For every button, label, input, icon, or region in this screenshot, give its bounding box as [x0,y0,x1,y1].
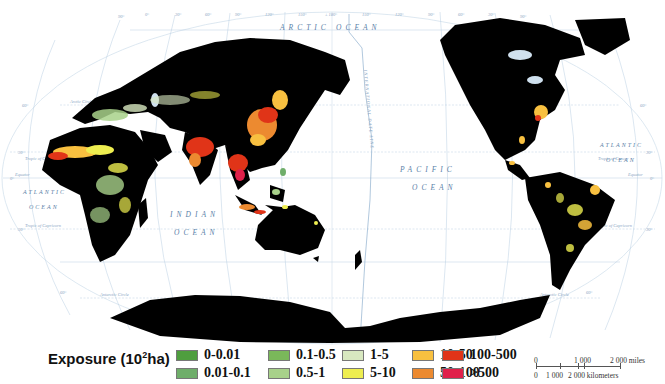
legend-title: Exposure (102ha) [48,350,170,367]
svg-text:60°: 60° [205,12,212,17]
legend-item-1-5: 1-5 [342,348,389,362]
svg-text:60°: 60° [22,103,29,108]
atlantic-ocean-west-label-1: ATLANTIC [22,189,66,195]
legend-item-0-0.01: 0-0.01 [176,348,240,362]
svg-text:90°: 90° [520,14,527,19]
scale-bar: 0 1 000 2 000 miles 0 1 000 2 000 kilome… [532,356,662,382]
legend-swatch [442,350,464,361]
legend-swatch [342,368,364,379]
svg-text:60°: 60° [586,290,593,295]
legend-item-0.01-0.1: 0.01-0.1 [176,366,251,380]
legend-item-100-500: 100-500 [442,348,517,362]
arctic-ocean-label-1: ARCTIC [279,23,330,32]
legend-item-0.5-1: 0.5-1 [268,366,325,380]
atlantic-ocean-east-label-2: OCEAN [606,157,636,163]
svg-text:Tropic of Capricorn: Tropic of Capricorn [25,223,62,228]
legend-swatch [412,368,434,379]
svg-text:150°: 150° [362,12,371,17]
svg-text:Equator: Equator [627,172,643,177]
legend-swatch [176,368,198,379]
svg-text:0°: 0° [145,12,149,17]
legend-swatch [268,368,290,379]
legend-swatch [268,350,290,361]
svg-text:120°: 120° [395,12,404,17]
svg-text:Equator: Equator [14,172,30,177]
world-exposure-map: 90° 0° 30° 60° 90° 120° 150° ± 180° 150°… [0,0,665,345]
svg-text:Antarctic Circle: Antarctic Circle [99,292,129,297]
svg-text:30°: 30° [175,12,182,17]
svg-text:30°: 30° [18,150,25,155]
svg-text:0°: 0° [10,176,14,181]
svg-text:60°: 60° [60,290,67,295]
legend-item-over-500: >500 [442,366,499,380]
svg-text:60°: 60° [458,12,465,17]
svg-text:30°: 30° [646,227,653,232]
atlantic-ocean-east-label-1: ATLANTIC [599,142,643,148]
svg-text:90°: 90° [235,12,242,17]
svg-text:90°: 90° [428,12,435,17]
svg-text:90°: 90° [118,14,125,19]
legend-item-0.1-0.5: 0.1-0.5 [268,348,336,362]
svg-text:± 180°: ± 180° [325,12,337,17]
pacific-ocean-label-2: OCEAN [412,183,457,192]
arctic-ocean-label-2: OCEAN [336,23,381,32]
svg-text:30°: 30° [488,12,495,17]
svg-text:60°: 60° [640,103,647,108]
indian-ocean-label-2: OCEAN [174,228,219,237]
exposure-legend: Exposure (102ha) 0-0.01 0.01-0.1 0.1-0.5… [48,346,468,382]
legend-swatch [176,350,198,361]
legend-swatch [442,368,464,379]
svg-text:120°: 120° [265,12,274,17]
indian-ocean-label-1: INDIAN [169,210,219,219]
svg-text:150°: 150° [298,12,307,17]
pacific-ocean-label-1: PACIFIC [399,165,456,174]
atlantic-ocean-west-label-2: OCEAN [29,204,59,210]
legend-item-5-10: 5-10 [342,366,396,380]
svg-text:30°: 30° [18,227,25,232]
svg-text:0°: 0° [650,176,654,181]
legend-swatch [412,350,434,361]
legend-swatch [342,350,364,361]
svg-text:30°: 30° [646,150,653,155]
